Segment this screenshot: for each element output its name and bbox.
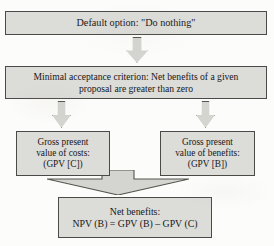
node-net-benefits-label: Net benefits: NPV (B) = GPV (B) – GPV (C… xyxy=(68,206,201,229)
arrow-outline xyxy=(126,37,148,63)
arrow-down-icon-default-to-criterion xyxy=(126,37,148,63)
arrow-down-icon-criterion-to-costs xyxy=(52,101,71,128)
node-gross-present-value-benefits-label: Gross present value of benefits: (GPV [B… xyxy=(171,137,244,170)
flowchart-diagram: Default option: "Do nothing" Minimal acc… xyxy=(0,0,274,246)
node-default-option: Default option: "Do nothing" xyxy=(5,11,267,35)
node-default-option-label: Default option: "Do nothing" xyxy=(73,17,200,29)
node-acceptance-criterion: Minimal acceptance criterion: Net benefi… xyxy=(5,66,267,99)
arrow-down-icon-criterion-to-benefits xyxy=(196,101,215,128)
node-gross-present-value-costs: Gross present value of costs: (GPV [C]) xyxy=(16,131,110,176)
arrow-outline xyxy=(196,101,215,128)
node-acceptance-criterion-label: Minimal acceptance criterion: Net benefi… xyxy=(30,71,243,94)
node-net-benefits: Net benefits: NPV (B) = GPV (B) – GPV (C… xyxy=(58,197,212,238)
arrow-outline xyxy=(52,101,71,128)
node-gross-present-value-costs-label: Gross present value of costs: (GPV [C]) xyxy=(32,137,94,170)
node-gross-present-value-benefits: Gross present value of benefits: (GPV [B… xyxy=(160,131,255,176)
